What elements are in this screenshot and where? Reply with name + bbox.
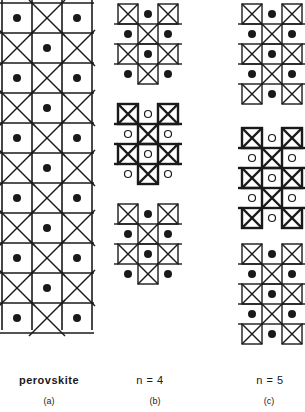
structure-block bbox=[238, 128, 305, 228]
atom-filled-icon bbox=[43, 284, 51, 292]
panel-a-label: (a) bbox=[34, 396, 64, 406]
panel-n4 bbox=[114, 4, 182, 284]
atom-open-icon bbox=[165, 171, 172, 178]
atom-filled-icon bbox=[73, 14, 81, 22]
atom-filled-icon bbox=[73, 194, 81, 202]
atom-filled-icon bbox=[248, 270, 256, 278]
structure-block bbox=[0, 0, 95, 336]
atom-filled-icon bbox=[13, 134, 21, 142]
structure-block bbox=[114, 4, 182, 84]
atom-filled-icon bbox=[144, 10, 152, 18]
structure-block bbox=[238, 4, 305, 104]
atom-filled-icon bbox=[124, 70, 132, 78]
structure-block bbox=[238, 244, 305, 344]
atom-filled-icon bbox=[124, 230, 132, 238]
panel-c-title: n = 5 bbox=[250, 374, 290, 386]
atom-open-icon bbox=[269, 135, 276, 142]
atom-filled-icon bbox=[268, 330, 276, 338]
structure-block bbox=[114, 204, 182, 284]
panel-a-title: perovskite bbox=[14, 374, 84, 386]
atom-filled-icon bbox=[144, 50, 152, 58]
atom-open-icon bbox=[249, 155, 256, 162]
atom-filled-icon bbox=[124, 30, 132, 38]
atom-open-icon bbox=[125, 131, 132, 138]
atom-open-icon bbox=[249, 195, 256, 202]
atom-filled-icon bbox=[43, 104, 51, 112]
atom-filled-icon bbox=[43, 164, 51, 172]
atom-filled-icon bbox=[13, 14, 21, 22]
atom-filled-icon bbox=[13, 254, 21, 262]
atom-filled-icon bbox=[248, 30, 256, 38]
atom-filled-icon bbox=[73, 254, 81, 262]
atom-filled-icon bbox=[288, 70, 296, 78]
atom-filled-icon bbox=[248, 310, 256, 318]
panel-perovskite bbox=[0, 0, 95, 336]
panel-b-label: (b) bbox=[140, 396, 170, 406]
atom-open-icon bbox=[269, 215, 276, 222]
atom-open-icon bbox=[269, 175, 276, 182]
atom-filled-icon bbox=[268, 290, 276, 298]
structure-block bbox=[114, 104, 182, 184]
panel-n5 bbox=[238, 4, 305, 344]
atom-filled-icon bbox=[124, 270, 132, 278]
atom-filled-icon bbox=[144, 210, 152, 218]
atom-filled-icon bbox=[13, 314, 21, 322]
atom-open-icon bbox=[125, 171, 132, 178]
atom-filled-icon bbox=[268, 50, 276, 58]
perovskite-structure-diagram bbox=[0, 0, 305, 412]
atom-filled-icon bbox=[43, 44, 51, 52]
atom-filled-icon bbox=[13, 194, 21, 202]
atom-open-icon bbox=[145, 151, 152, 158]
panel-c-label: (c) bbox=[254, 396, 284, 406]
atom-filled-icon bbox=[164, 270, 172, 278]
atom-filled-icon bbox=[288, 310, 296, 318]
atom-open-icon bbox=[289, 195, 296, 202]
atom-filled-icon bbox=[13, 74, 21, 82]
atom-filled-icon bbox=[43, 224, 51, 232]
atom-filled-icon bbox=[73, 314, 81, 322]
atom-filled-icon bbox=[73, 74, 81, 82]
atom-filled-icon bbox=[288, 270, 296, 278]
atom-filled-icon bbox=[164, 70, 172, 78]
panel-b-title: n = 4 bbox=[130, 374, 170, 386]
atom-filled-icon bbox=[164, 230, 172, 238]
atom-filled-icon bbox=[268, 250, 276, 258]
atom-filled-icon bbox=[144, 250, 152, 258]
atom-filled-icon bbox=[164, 30, 172, 38]
atom-filled-icon bbox=[288, 30, 296, 38]
atom-filled-icon bbox=[248, 70, 256, 78]
atom-open-icon bbox=[289, 155, 296, 162]
atom-filled-icon bbox=[268, 10, 276, 18]
atom-open-icon bbox=[165, 131, 172, 138]
atom-filled-icon bbox=[73, 134, 81, 142]
atom-filled-icon bbox=[268, 90, 276, 98]
atom-open-icon bbox=[145, 111, 152, 118]
